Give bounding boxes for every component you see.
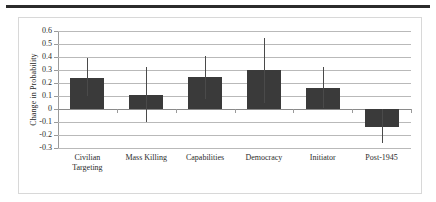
x-axis-category-label-line: Initiator <box>293 153 352 163</box>
y-axis-tick-label: 0.3 <box>42 66 52 74</box>
x-axis-category-label-line: Democracy <box>235 153 294 163</box>
x-axis-category-label: Initiator <box>293 153 352 163</box>
x-axis-tick-mark <box>411 109 412 113</box>
x-axis-category-label-line: Mass Killing <box>117 153 176 163</box>
y-axis-tick-label: 0.1 <box>42 92 52 100</box>
x-axis-category-label: Mass Killing <box>117 153 176 163</box>
gridline <box>58 148 411 149</box>
error-bar <box>87 58 88 96</box>
plot-area: 0.60.50.40.30.20.10-0.1-0.2-0.3 <box>58 31 411 148</box>
x-axis-category-labels: CivilianTargetingMass KillingCapabilitie… <box>58 153 411 187</box>
figure: Change in Probability 0.60.50.40.30.20.1… <box>0 0 436 202</box>
bar-group <box>117 31 176 148</box>
y-axis-title: Change in Probability <box>26 31 40 148</box>
bar-group <box>235 31 294 148</box>
y-axis-tick-label: -0.2 <box>39 131 52 139</box>
y-axis-title-label: Change in Probability <box>29 53 38 125</box>
error-bar <box>264 38 265 103</box>
x-axis-category-label-line: Civilian <box>58 153 117 163</box>
y-axis-tick-label: 0.2 <box>42 79 52 87</box>
error-bar <box>323 67 324 107</box>
bar-group <box>293 31 352 148</box>
error-bar <box>146 67 147 122</box>
y-axis-tick-mark <box>54 148 58 149</box>
x-axis-category-label: CivilianTargeting <box>58 153 117 173</box>
top-rule-divider <box>6 5 430 8</box>
bar-group <box>58 31 117 148</box>
x-axis-category-label: Post-1945 <box>352 153 411 163</box>
bar-group <box>352 31 411 148</box>
y-axis-tick-label: 0.4 <box>42 53 52 61</box>
x-axis-category-label-line: Targeting <box>58 163 117 173</box>
y-axis-tick-label: -0.3 <box>39 144 52 152</box>
x-axis-category-label: Capabilities <box>176 153 235 163</box>
y-axis-tick-label: 0.5 <box>42 40 52 48</box>
y-axis-tick-label: -0.1 <box>39 118 52 126</box>
y-axis-tick-label: 0.6 <box>42 27 52 35</box>
error-bar <box>205 56 206 99</box>
y-axis-tick-label: 0 <box>48 105 52 113</box>
x-axis-category-label: Democracy <box>235 153 294 163</box>
x-axis-category-label-line: Post-1945 <box>352 153 411 163</box>
x-axis-category-label-line: Capabilities <box>176 153 235 163</box>
bar-group <box>176 31 235 148</box>
error-bar <box>382 109 383 143</box>
